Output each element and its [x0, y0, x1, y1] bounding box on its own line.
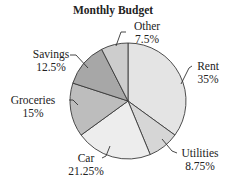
- label-savings-name: Savings: [27, 48, 75, 61]
- label-utilities-value: 8.75%: [176, 160, 224, 173]
- label-car: Car 21.25%: [64, 152, 108, 178]
- label-savings: Savings 12.5%: [27, 48, 75, 74]
- label-rent-name: Rent: [191, 60, 225, 73]
- label-rent: Rent 35%: [191, 60, 225, 86]
- label-other-name: Other: [122, 20, 172, 33]
- label-groceries: Groceries 15%: [0, 94, 66, 120]
- label-car-name: Car: [64, 152, 108, 165]
- label-savings-value: 12.5%: [27, 61, 75, 74]
- label-groceries-name: Groceries: [0, 94, 66, 107]
- pie-slices: [70, 43, 186, 159]
- label-other-value: 7.5%: [122, 33, 172, 46]
- label-rent-value: 35%: [191, 73, 225, 86]
- label-car-value: 21.25%: [64, 165, 108, 178]
- label-utilities: Utilities 8.75%: [176, 147, 224, 173]
- label-groceries-value: 15%: [0, 107, 66, 120]
- label-other: Other 7.5%: [122, 20, 172, 46]
- label-utilities-name: Utilities: [176, 147, 224, 160]
